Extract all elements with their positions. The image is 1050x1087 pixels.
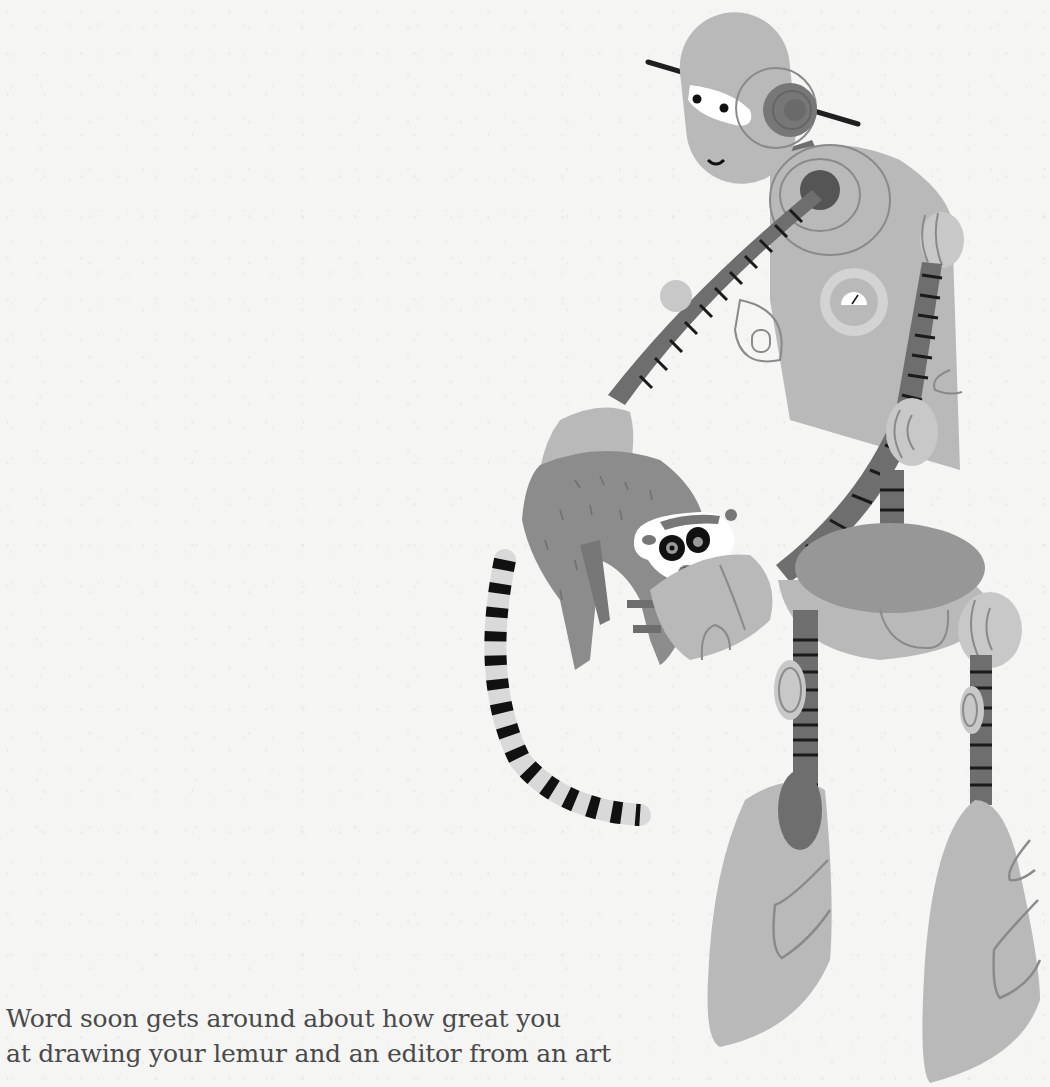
story-line-1: Word soon gets around about how great yo… xyxy=(6,1001,726,1036)
story-line-2: at drawing your lemur and an editor from… xyxy=(6,1036,726,1071)
story-text: Word soon gets around about how great yo… xyxy=(6,1001,726,1071)
robot-feet xyxy=(708,770,1041,1083)
robot-lemur-illustration xyxy=(0,0,1050,1087)
